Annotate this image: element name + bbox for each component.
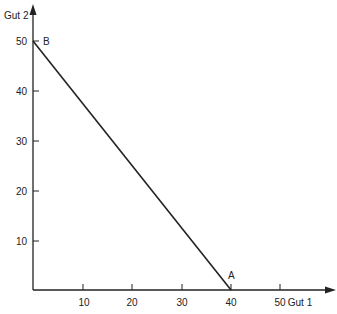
point-label-a: A: [228, 270, 235, 281]
y-tick-label: 20: [16, 186, 28, 197]
x-ticks: [83, 284, 280, 290]
budget-line: [33, 41, 231, 290]
y-axis-label: Gut 2: [4, 10, 29, 21]
y-tick-label: 40: [16, 86, 28, 97]
x-axis-label: Gut 1: [288, 297, 313, 308]
y-tick-label: 30: [16, 136, 28, 147]
x-tick-label: 10: [78, 297, 90, 308]
y-axis-arrow-icon: [30, 4, 37, 15]
x-tick-label: 30: [176, 297, 188, 308]
x-tick-label: 50: [274, 297, 286, 308]
x-tick-label: 40: [225, 297, 237, 308]
chart: 10 20 30 40 50 10 20 30 40 50 Gut 2 Gut …: [0, 0, 337, 314]
y-tick-label: 10: [16, 236, 28, 247]
x-axis-arrow-icon: [325, 287, 336, 294]
y-tick-label: 50: [16, 36, 28, 47]
x-tick-label: 20: [126, 297, 138, 308]
y-ticks: [33, 41, 39, 241]
point-label-b: B: [43, 36, 50, 47]
